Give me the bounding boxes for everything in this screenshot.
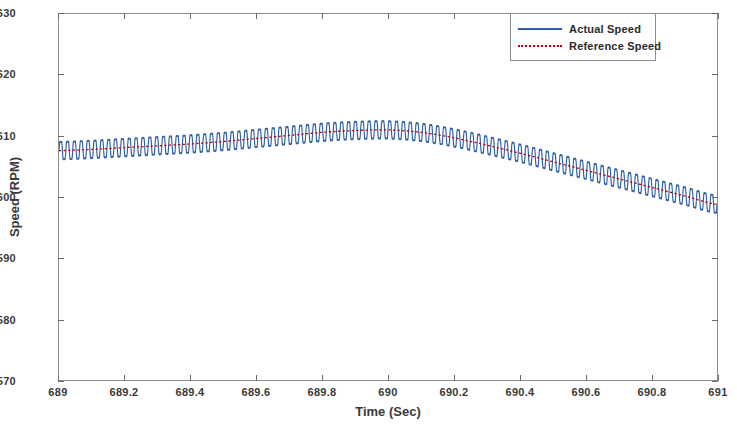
y-tick-label: 1610 bbox=[0, 130, 16, 142]
x-tick-label: 689 bbox=[48, 386, 67, 398]
actual-speed-series bbox=[59, 121, 717, 214]
chart-figure: 689689.2689.4689.6689.8690690.2690.4690.… bbox=[0, 0, 737, 427]
x-tick-label: 690.4 bbox=[505, 386, 534, 398]
y-tick-label: 1570 bbox=[0, 375, 16, 387]
plot-area bbox=[58, 13, 718, 381]
x-tick-label: 689.6 bbox=[241, 386, 270, 398]
y-tick-mark bbox=[712, 320, 718, 321]
solid-line-swatch bbox=[518, 23, 562, 35]
x-tick-label: 690.2 bbox=[439, 386, 468, 398]
y-tick-mark bbox=[58, 381, 64, 382]
x-tick-mark bbox=[124, 13, 125, 19]
x-tick-mark bbox=[652, 375, 653, 381]
y-tick-mark bbox=[58, 13, 64, 14]
y-tick-mark bbox=[58, 74, 64, 75]
x-tick-label: 690 bbox=[378, 386, 397, 398]
x-tick-label: 690.6 bbox=[571, 386, 600, 398]
x-tick-mark bbox=[388, 13, 389, 19]
y-tick-label: 1590 bbox=[0, 252, 16, 264]
x-tick-label: 689.4 bbox=[175, 386, 204, 398]
series-canvas bbox=[59, 14, 717, 380]
legend-item-reference-speed: Reference Speed bbox=[518, 37, 648, 54]
x-tick-mark bbox=[322, 13, 323, 19]
x-tick-mark bbox=[322, 375, 323, 381]
x-tick-mark bbox=[718, 375, 719, 381]
chart-legend: Actual Speed Reference Speed bbox=[510, 13, 656, 61]
y-tick-mark bbox=[712, 13, 718, 14]
y-tick-label: 1620 bbox=[0, 68, 16, 80]
x-tick-mark bbox=[190, 13, 191, 19]
x-tick-label: 691 bbox=[708, 386, 727, 398]
dotted-line-swatch bbox=[518, 40, 562, 52]
y-tick-mark bbox=[58, 197, 64, 198]
x-tick-mark bbox=[520, 375, 521, 381]
x-tick-mark bbox=[190, 375, 191, 381]
x-tick-label: 689.2 bbox=[109, 386, 138, 398]
x-tick-mark bbox=[586, 375, 587, 381]
y-tick-label: 1630 bbox=[0, 7, 16, 19]
y-axis-title: Speed (RPM) bbox=[7, 157, 22, 237]
x-tick-mark bbox=[256, 13, 257, 19]
y-tick-mark bbox=[58, 320, 64, 321]
x-tick-mark bbox=[454, 375, 455, 381]
legend-label-reference-speed: Reference Speed bbox=[569, 40, 661, 52]
x-tick-mark bbox=[124, 375, 125, 381]
y-tick-mark bbox=[712, 258, 718, 259]
x-tick-mark bbox=[454, 13, 455, 19]
legend-label-actual-speed: Actual Speed bbox=[569, 23, 641, 35]
legend-item-actual-speed: Actual Speed bbox=[518, 20, 648, 37]
y-tick-mark bbox=[58, 258, 64, 259]
x-tick-mark bbox=[718, 13, 719, 19]
x-tick-label: 689.8 bbox=[307, 386, 336, 398]
x-tick-mark bbox=[388, 375, 389, 381]
x-tick-mark bbox=[256, 375, 257, 381]
y-tick-mark bbox=[712, 381, 718, 382]
y-tick-mark bbox=[712, 197, 718, 198]
x-tick-label: 690.8 bbox=[637, 386, 666, 398]
y-tick-mark bbox=[712, 74, 718, 75]
x-axis-title: Time (Sec) bbox=[355, 404, 421, 419]
y-tick-mark bbox=[58, 136, 64, 137]
y-tick-mark bbox=[712, 136, 718, 137]
y-tick-label: 1580 bbox=[0, 314, 16, 326]
